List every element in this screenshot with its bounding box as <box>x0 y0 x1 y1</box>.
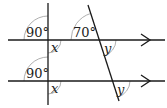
label-bottom-90: 90° <box>26 66 49 81</box>
label-70: 70° <box>73 25 96 40</box>
label-top-90: 90° <box>26 25 49 40</box>
label-top-x: x <box>51 40 59 55</box>
label-top-y: y <box>103 41 112 56</box>
label-bottom-x: x <box>51 81 59 96</box>
label-bottom-y: y <box>116 82 125 97</box>
angle-diagram: 90° x 70° y 90° x y <box>0 0 167 108</box>
diagram-canvas: 90° x 70° y 90° x y <box>0 0 167 108</box>
